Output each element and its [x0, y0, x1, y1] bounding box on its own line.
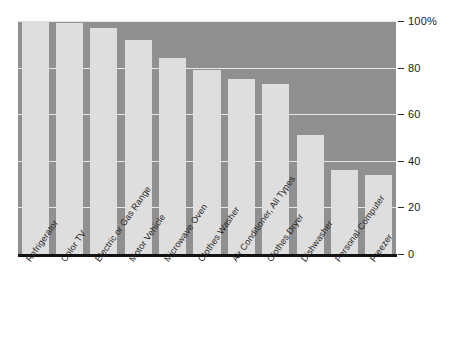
y-axis-label: 40 — [408, 156, 421, 167]
y-axis-tick — [398, 161, 404, 162]
bar — [159, 58, 186, 254]
y-axis-tick — [398, 114, 404, 115]
plot-area — [18, 21, 396, 254]
bar — [22, 21, 49, 254]
bar — [90, 28, 117, 254]
bar — [56, 23, 83, 254]
x-axis-category-labels: RefrigeratorColor TVElectric or Gas Rang… — [0, 258, 450, 360]
bar-chart: 100%806040200 RefrigeratorColor TVElectr… — [0, 0, 450, 360]
y-axis-label: 100% — [408, 16, 437, 27]
y-axis-label: 20 — [408, 202, 421, 213]
y-axis-tick — [398, 207, 404, 208]
bar-series — [18, 21, 396, 254]
y-axis-label: 60 — [408, 109, 421, 120]
y-axis-tick — [398, 21, 404, 22]
y-axis-tick — [398, 254, 404, 255]
y-axis-label: 80 — [408, 63, 421, 74]
y-axis-tick — [398, 68, 404, 69]
